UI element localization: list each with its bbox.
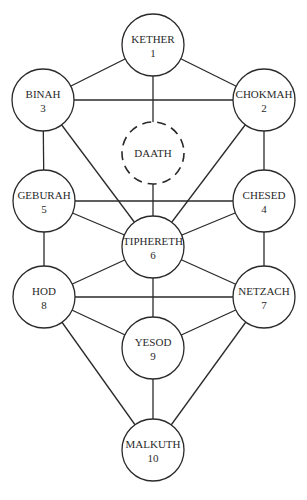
- sephirah-circle: [233, 69, 295, 131]
- tree-of-life-diagram: KETHER1CHOKMAH2BINAH3DAATHCHESED4GEBURAH…: [0, 0, 307, 500]
- sephirah-circle: [12, 69, 74, 131]
- sephirah-circle: [13, 266, 75, 328]
- sephirah-number: 9: [150, 350, 156, 362]
- sephirah-circle: [122, 216, 184, 278]
- sephirah-hod: HOD8: [13, 266, 75, 328]
- sephirah-circle: [233, 170, 295, 232]
- sephirah-circle: [13, 170, 75, 232]
- sephirah-name: CHOKMAH: [236, 88, 293, 100]
- sephirah-name: KETHER: [131, 33, 175, 45]
- sephirah-number: 10: [148, 452, 160, 464]
- sephirah-circle: [122, 419, 184, 481]
- sephirah-name: NETZACH: [238, 285, 289, 297]
- sephirah-binah: BINAH3: [12, 69, 74, 131]
- sephirah-number: 4: [261, 203, 267, 215]
- sephirah-name: TIPHERETH: [123, 235, 183, 247]
- sephirah-daath: DAATH: [122, 122, 184, 184]
- sephirah-name: GEBURAH: [17, 189, 70, 201]
- sephirah-name: CHESED: [243, 189, 286, 201]
- sephirah-tiphereth: TIPHERETH6: [122, 216, 184, 278]
- sephirah-circle: [122, 317, 184, 379]
- sephirah-kether: KETHER1: [122, 14, 184, 76]
- sephirah-chesed: CHESED4: [233, 170, 295, 232]
- sephirah-netzach: NETZACH7: [233, 266, 295, 328]
- sephirah-geburah: GEBURAH5: [13, 170, 75, 232]
- sephirah-number: 7: [261, 299, 267, 311]
- sephirah-number: 2: [261, 102, 267, 114]
- sephirah-yesod: YESOD9: [122, 317, 184, 379]
- sephirah-number: 3: [40, 102, 46, 114]
- sephirah-name: HOD: [32, 285, 56, 297]
- sephirah-name: BINAH: [26, 88, 61, 100]
- sephirah-name: YESOD: [135, 336, 172, 348]
- sephirah-circle: [122, 14, 184, 76]
- sephirah-number: 5: [41, 203, 47, 215]
- sephirah-number: 8: [41, 299, 47, 311]
- sephirah-name: MALKUTH: [126, 438, 181, 450]
- sephirah-circle: [233, 266, 295, 328]
- sephirah-name: DAATH: [134, 147, 171, 159]
- sephirah-number: 6: [150, 249, 156, 261]
- sephirah-malkuth: MALKUTH10: [122, 419, 184, 481]
- sephirah-number: 1: [150, 47, 156, 59]
- sephirah-chokmah: CHOKMAH2: [233, 69, 295, 131]
